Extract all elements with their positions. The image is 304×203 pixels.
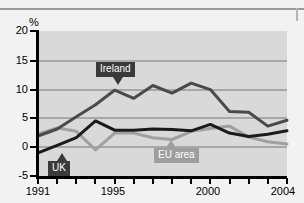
y-tick-10 bbox=[30, 89, 37, 91]
x-tick-1995 bbox=[114, 178, 116, 184]
y-tick-minus5 bbox=[30, 175, 37, 177]
x-tick-2001 bbox=[229, 178, 231, 184]
y-label-15: 15 bbox=[2, 55, 28, 66]
x-tick-1999 bbox=[190, 178, 192, 184]
callout-uk: UK bbox=[48, 161, 70, 176]
callout-uk-pointer bbox=[57, 153, 67, 161]
x-tick-2000 bbox=[209, 178, 211, 184]
x-tick-1992 bbox=[56, 178, 58, 184]
y-label-10: 10 bbox=[2, 84, 28, 95]
y-axis-unit-label: % bbox=[29, 17, 39, 28]
callout-ireland: Ireland bbox=[96, 62, 135, 77]
x-tick-1998 bbox=[171, 178, 173, 184]
y-tick-0 bbox=[30, 146, 37, 148]
callout-ireland-pointer bbox=[113, 77, 123, 85]
chart-figure: % 20 15 10 5 0 -5 1991 1995 2000 2004 Ir… bbox=[0, 0, 304, 203]
series-lines bbox=[0, 0, 304, 203]
x-tick-1994 bbox=[94, 178, 96, 184]
y-label-5: 5 bbox=[2, 112, 28, 123]
y-label-20: 20 bbox=[2, 25, 28, 36]
x-tick-1993 bbox=[75, 178, 77, 184]
y-axis bbox=[36, 30, 39, 178]
x-tick-1991 bbox=[37, 178, 39, 184]
y-tick-15 bbox=[30, 60, 37, 62]
x-label-2004: 2004 bbox=[260, 186, 304, 197]
x-tick-2004 bbox=[286, 178, 288, 184]
y-tick-20 bbox=[30, 30, 37, 32]
x-label-1995: 1995 bbox=[90, 186, 136, 197]
callout-eu-area-pointer bbox=[166, 140, 176, 148]
x-tick-2003 bbox=[267, 178, 269, 184]
y-label-minus5: -5 bbox=[2, 170, 28, 181]
x-label-1991: 1991 bbox=[15, 186, 61, 197]
x-tick-2002 bbox=[248, 178, 250, 184]
x-label-2000: 2000 bbox=[185, 186, 231, 197]
callout-eu-area: EU area bbox=[154, 148, 199, 163]
y-label-0: 0 bbox=[2, 141, 28, 152]
y-tick-5 bbox=[30, 117, 37, 119]
x-tick-1996 bbox=[133, 178, 135, 184]
x-tick-1997 bbox=[152, 178, 154, 184]
